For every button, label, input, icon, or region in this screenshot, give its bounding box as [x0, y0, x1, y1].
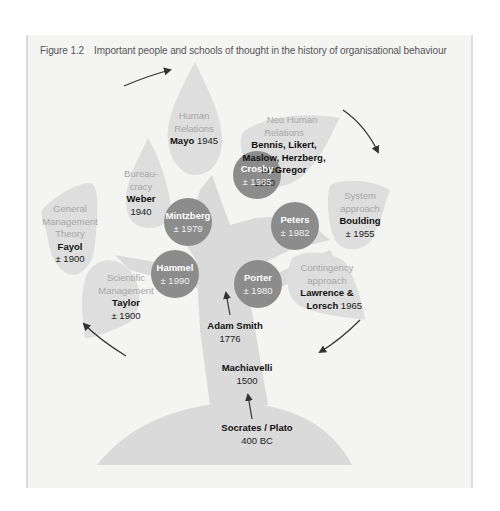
circle-label-mintzberg: Mintzberg ± 1979 [160, 210, 216, 235]
trunk-label-machiavelli: Machiavelli 1500 [210, 362, 284, 387]
circle-label-porter: Porter ± 1980 [230, 272, 286, 297]
leaf-label-bureaucracy: Bureau- cracy Weber 1940 [117, 168, 165, 218]
arrow-bottom-right [320, 320, 360, 352]
leaf-label-general-management: General Management Theory Fayol ± 1900 [38, 203, 102, 266]
circle-label-peters: Peters ± 1982 [267, 214, 323, 239]
circle-label-hammel: Hammel ± 1990 [147, 262, 203, 287]
trunk-label-socrates-plato: Socrates / Plato 400 BC [212, 422, 302, 447]
leaf-label-human-relations: Human Relations Mayo 1945 [165, 110, 223, 148]
trunk-label-adam-smith: Adam Smith 1776 [200, 320, 270, 345]
leaf-label-contingency-approach: Contingency approach Lawrence & Lorsch 1… [292, 262, 362, 312]
leaf-label-system-approach: System approach Boulding ± 1955 [332, 190, 388, 240]
circle-label-crosby: Crosby ± 1985 [229, 163, 285, 188]
arrow-top-right [343, 110, 378, 152]
arrow-top-left [124, 70, 170, 86]
